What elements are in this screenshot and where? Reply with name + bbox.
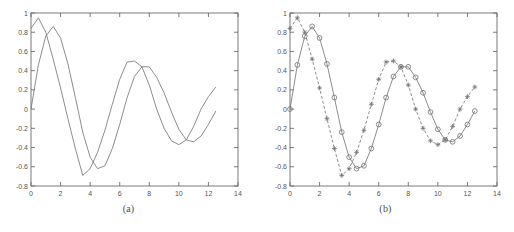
marker-plus bbox=[310, 57, 315, 62]
x-tick-label: 4 bbox=[88, 190, 92, 197]
y-tick-label: -0.8 bbox=[275, 183, 287, 190]
marker-plus bbox=[317, 86, 322, 91]
series-line-sampled-signal-1 bbox=[290, 18, 475, 176]
x-tick-label: 8 bbox=[147, 190, 151, 197]
x-tick-label: 0 bbox=[29, 190, 33, 197]
caption-a: (a) bbox=[0, 203, 257, 214]
plot-a: 02468101214-0.8-0.6-0.4-0.200.20.40.60.8… bbox=[0, 0, 257, 232]
y-tick-label: -0.8 bbox=[16, 183, 28, 190]
panel-a: 02468101214-0.8-0.6-0.4-0.200.20.40.60.8… bbox=[0, 0, 257, 232]
y-tick-label: 0.4 bbox=[277, 67, 287, 74]
x-tick-label: 6 bbox=[118, 190, 122, 197]
y-tick-label: 0.4 bbox=[18, 67, 28, 74]
y-tick-label: -0.4 bbox=[16, 144, 28, 151]
x-tick-label: 2 bbox=[318, 190, 322, 197]
marker-plus bbox=[450, 124, 455, 129]
y-tick-label: -0.2 bbox=[16, 125, 28, 132]
x-tick-label: 2 bbox=[59, 190, 63, 197]
marker-plus bbox=[413, 107, 418, 112]
marker-plus bbox=[465, 94, 470, 99]
x-tick-label: 6 bbox=[377, 190, 381, 197]
series-line-signal-1 bbox=[31, 18, 216, 176]
x-tick-label: 14 bbox=[234, 190, 242, 197]
marker-plus bbox=[339, 173, 344, 178]
y-tick-label: -0.2 bbox=[275, 125, 287, 132]
y-tick-label: 0.2 bbox=[18, 86, 28, 93]
marker-plus bbox=[362, 128, 367, 133]
y-tick-label: 0.2 bbox=[277, 86, 287, 93]
plot-border bbox=[290, 13, 497, 186]
figure-two-panel: 02468101214-0.8-0.6-0.4-0.200.20.40.60.8… bbox=[0, 0, 514, 232]
series-line-sampled-signal-2 bbox=[290, 26, 475, 168]
marker-plus bbox=[384, 60, 389, 65]
caption-b: (b) bbox=[257, 203, 514, 214]
y-tick-label: 0 bbox=[283, 106, 287, 113]
marker-plus bbox=[295, 15, 300, 20]
marker-plus bbox=[472, 85, 477, 90]
x-tick-label: 10 bbox=[175, 190, 183, 197]
marker-plus bbox=[406, 83, 411, 88]
series-line-signal-2 bbox=[31, 26, 216, 168]
marker-plus bbox=[458, 107, 463, 112]
marker-plus bbox=[391, 59, 396, 64]
y-tick-label: 0.8 bbox=[18, 29, 28, 36]
x-tick-label: 14 bbox=[493, 190, 501, 197]
y-tick-label: 0.8 bbox=[277, 29, 287, 36]
x-tick-label: 8 bbox=[406, 190, 410, 197]
marker-plus bbox=[325, 116, 330, 121]
marker-plus bbox=[354, 150, 359, 155]
y-tick-label: 1 bbox=[24, 10, 28, 17]
panel-b: 02468101214-0.8-0.6-0.4-0.200.20.40.60.8… bbox=[257, 0, 514, 232]
marker-plus bbox=[421, 126, 426, 131]
y-tick-label: 0.6 bbox=[277, 48, 287, 55]
x-tick-label: 10 bbox=[434, 190, 442, 197]
y-tick-label: -0.6 bbox=[275, 163, 287, 170]
y-tick-label: -0.4 bbox=[275, 144, 287, 151]
marker-plus bbox=[369, 102, 374, 107]
x-tick-label: 12 bbox=[464, 190, 472, 197]
marker-plus bbox=[376, 77, 381, 82]
marker-plus bbox=[332, 146, 337, 151]
marker-plus bbox=[288, 26, 293, 31]
x-tick-label: 12 bbox=[205, 190, 213, 197]
plot-b: 02468101214-0.8-0.6-0.4-0.200.20.40.60.8… bbox=[257, 0, 514, 232]
x-tick-label: 4 bbox=[347, 190, 351, 197]
y-tick-label: -0.6 bbox=[16, 163, 28, 170]
y-tick-label: 0.6 bbox=[18, 48, 28, 55]
x-tick-label: 0 bbox=[288, 190, 292, 197]
marker-plus bbox=[347, 166, 352, 171]
marker-plus bbox=[435, 142, 440, 147]
marker-plus bbox=[428, 138, 433, 143]
y-tick-label: 1 bbox=[283, 10, 287, 17]
y-tick-label: 0 bbox=[24, 106, 28, 113]
